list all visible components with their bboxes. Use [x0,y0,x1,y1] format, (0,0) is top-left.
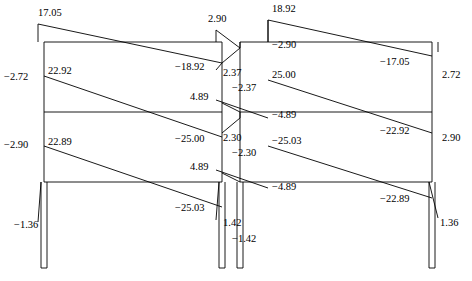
moment-value-label: −2.72 [4,72,28,83]
moment-value-label: 22.89 [48,137,72,148]
bmd-level2-bay1 [44,76,222,137]
moment-value-label: 2.72 [442,70,460,81]
moment-value-label: 1.42 [223,218,241,229]
moment-diagram-figure: 17.052.9018.92−2.7222.92−18.922.37−2.37−… [0,0,472,281]
bmd-mid-a-level2b [216,63,222,70]
moment-value-label: −4.89 [272,182,296,193]
bmd-mid-a-level1 [222,118,240,133]
moment-value-label: −25.03 [272,136,302,147]
moment-value-label: −2.90 [4,140,28,151]
moment-value-label: −1.42 [232,234,256,245]
moment-value-label: −1.36 [14,220,38,231]
bmd-mid-a-level2 [222,48,240,63]
moment-value-label: −2.90 [272,40,296,51]
moment-value-label: −4.89 [272,110,296,121]
moment-value-label: 25.00 [272,70,296,81]
moment-value-label: 18.92 [272,4,296,15]
bmd-link-level2 [216,100,268,118]
bmd-roof-bay2 [268,20,432,56]
moment-value-label: −22.89 [380,194,410,205]
moment-value-label: 22.92 [48,66,72,77]
bmd-ground-right [429,182,438,218]
moment-value-label: 4.89 [190,92,208,103]
moment-value-label: −18.92 [175,62,205,73]
bmd-link-level1 [216,170,268,188]
ground-column-left [41,182,47,268]
moment-value-label: 2.30 [223,133,241,144]
moment-value-label: 17.05 [38,8,62,19]
moment-value-label: 2.90 [208,14,226,25]
moment-value-label: 4.89 [190,162,208,173]
moment-value-label: −22.92 [380,126,410,137]
bmd-mid-a-roof-link [216,30,240,48]
moment-value-label: 1.36 [440,218,458,229]
moment-value-label: −2.30 [232,148,256,159]
moment-value-label: 2.90 [442,133,460,144]
moment-value-label: 2.37 [223,68,241,79]
moment-value-label: −17.05 [380,57,410,68]
bmd-roof-bay1 [38,24,222,63]
moment-value-label: −25.00 [175,134,205,145]
moment-value-label: −2.37 [232,83,256,94]
bmd-level1-bay1 [44,146,222,207]
moment-value-label: −25.03 [175,203,205,214]
